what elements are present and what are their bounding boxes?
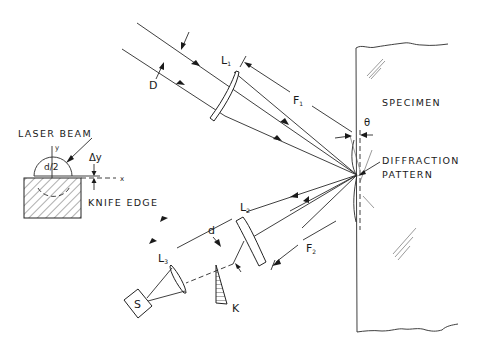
diffraction-label-line1: DIFFRACTION	[382, 155, 460, 166]
axis-y-label: y	[55, 144, 59, 152]
knife-edge-inset: y x Δy d/2 LASER BEAM KNIFE EDGE	[18, 128, 158, 218]
surface-sheen-top	[367, 59, 385, 79]
axis-x-label: x	[120, 175, 124, 183]
beam-diameter-label: D	[149, 79, 157, 92]
knife-edge-label: KNIFE EDGE	[88, 197, 158, 208]
incident-ray-upper	[137, 23, 357, 175]
diffraction-label-line2: PATTERN	[382, 169, 433, 180]
theta-label: θ	[364, 117, 370, 128]
focal2-label: F2	[306, 242, 316, 255]
focal-length-f1: F1	[240, 56, 352, 132]
focal1-label: F1	[293, 94, 303, 107]
knife-k-label: K	[232, 302, 240, 315]
lens2-label: L2	[240, 201, 250, 214]
focal-length-f2: F2	[271, 221, 336, 270]
knife-edge-block	[24, 178, 81, 218]
lens3-label: L3	[158, 252, 168, 265]
delta-y-label: Δy	[89, 152, 102, 163]
beam-d-label: d	[208, 224, 215, 237]
knife-k: K	[216, 265, 240, 315]
diffracted-beam	[149, 175, 357, 283]
specimen-top-edge	[356, 43, 448, 48]
diffraction-pattern-callout: DIFFRACTION PATTERN	[358, 155, 460, 180]
beam-d-dimension: d	[208, 224, 241, 272]
knife-k-wedge	[216, 265, 227, 304]
source-label: S	[134, 298, 141, 311]
diffraction-setup-diagram: y x Δy d/2 LASER BEAM KNIFE EDGE	[0, 0, 478, 350]
incident-ray-lower	[122, 49, 225, 116]
theta-angle: θ	[335, 117, 373, 139]
specimen: SPECIMEN	[350, 43, 458, 332]
detector-s: S	[124, 289, 152, 318]
laser-beam-label: LASER BEAM	[18, 128, 92, 139]
lens-l1: L1	[210, 54, 239, 121]
incident-beam: D	[122, 23, 357, 175]
specimen-left-edge	[356, 48, 357, 332]
lens-l3: L3	[147, 252, 186, 301]
lens1-label: L1	[221, 54, 231, 67]
specimen-bottom-edge	[357, 324, 458, 332]
surface-sheen-bottom	[393, 228, 416, 260]
specimen-label: SPECIMEN	[382, 97, 441, 108]
d-half-label: d/2	[44, 162, 58, 172]
